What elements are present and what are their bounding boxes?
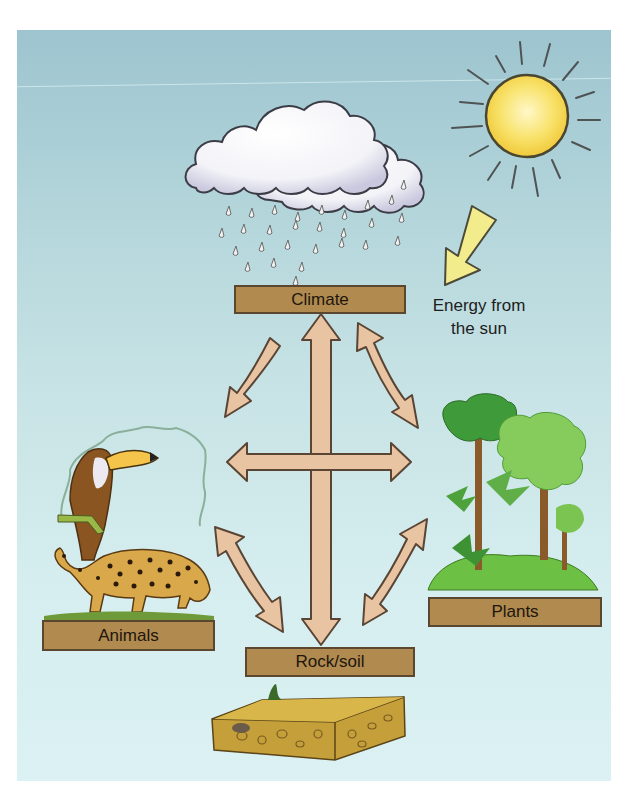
energy-caption-line1: Energy from — [418, 294, 540, 317]
arrow-climate-rock-soil — [302, 314, 340, 645]
rain-cloud-icon — [186, 101, 424, 285]
node-plants-label: Plants — [491, 602, 538, 622]
animals-illustration — [44, 427, 214, 622]
plants-illustration — [428, 394, 598, 590]
rock-soil-illustration — [212, 684, 405, 760]
arrow-plants-rock-soil — [363, 519, 427, 625]
energy-caption: Energy from the sun — [418, 294, 540, 340]
sun-energy-arrow-icon — [445, 206, 496, 285]
node-rock-soil: Rock/soil — [245, 647, 415, 677]
arrow-climate-plants — [357, 323, 418, 428]
energy-caption-line2: the sun — [418, 317, 540, 340]
node-climate-label: Climate — [291, 290, 349, 310]
node-plants: Plants — [428, 597, 602, 627]
sun-icon — [452, 42, 600, 196]
arrow-climate-animals — [225, 338, 280, 417]
node-rock-soil-label: Rock/soil — [296, 652, 365, 672]
node-animals: Animals — [42, 620, 215, 651]
node-animals-label: Animals — [98, 626, 158, 646]
arrow-animals-rock-soil — [215, 527, 283, 632]
node-climate: Climate — [234, 285, 406, 314]
